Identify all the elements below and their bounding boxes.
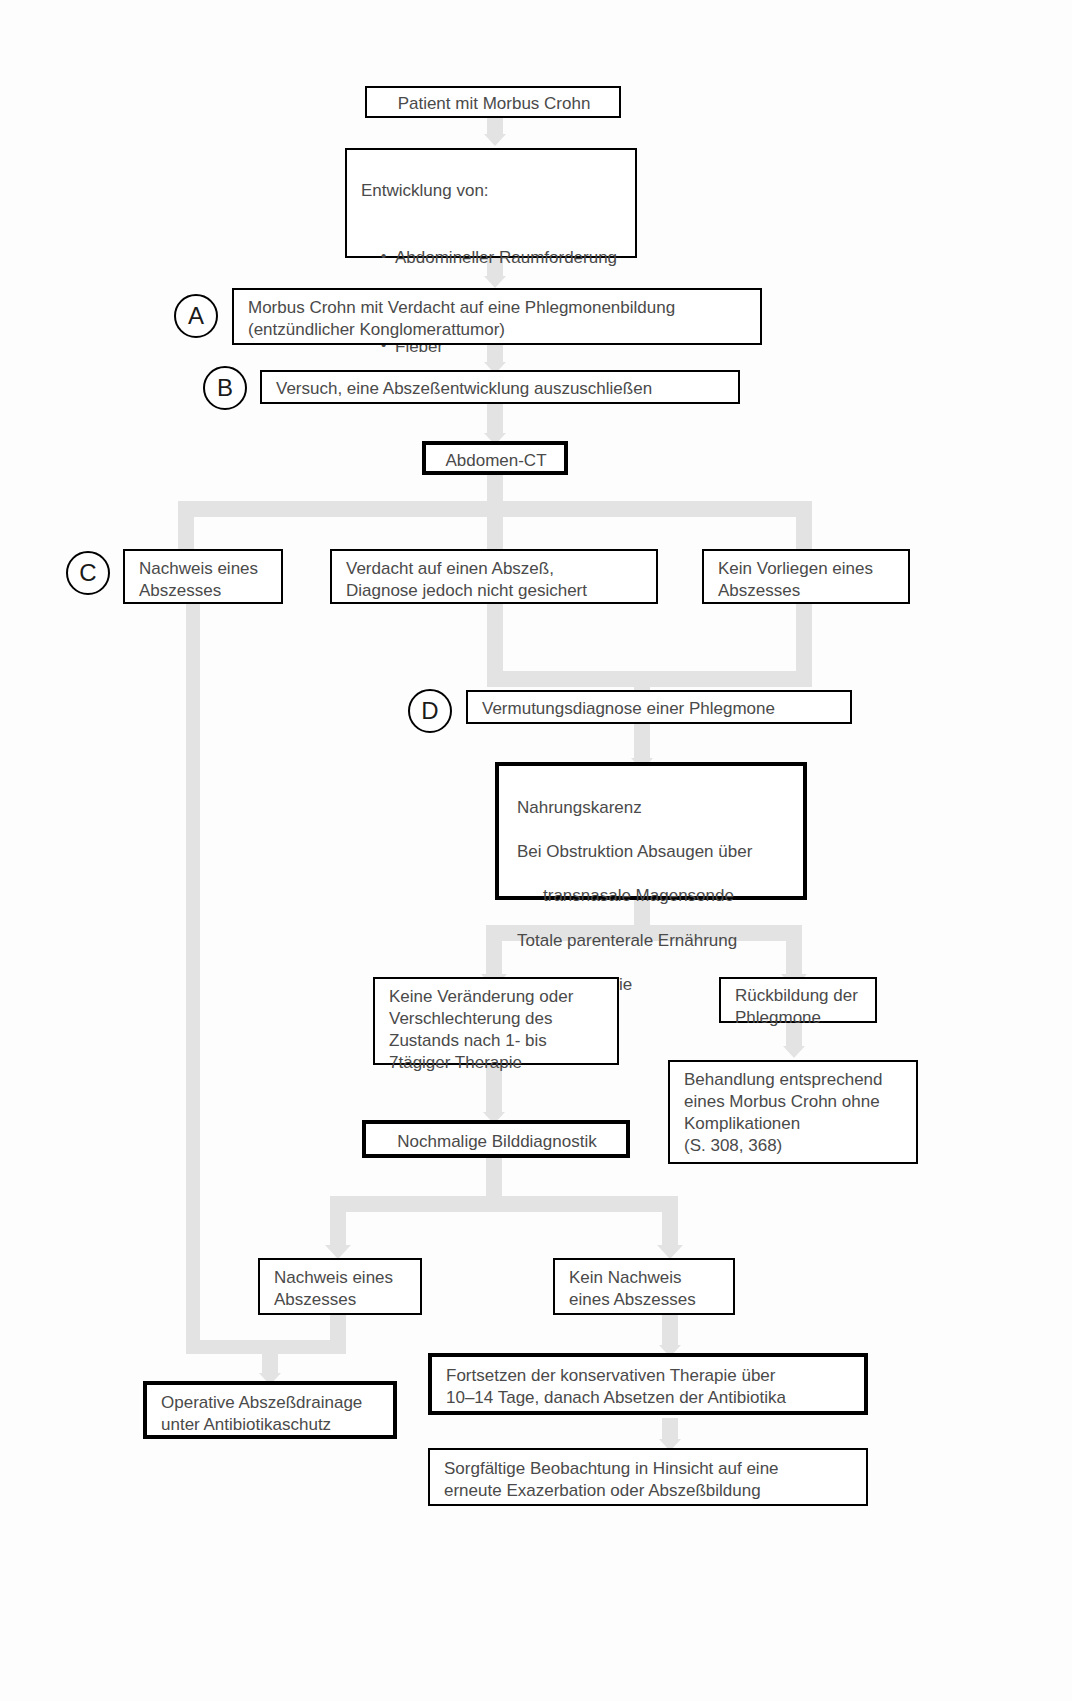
marker-a: A (174, 294, 218, 338)
node-nachweis-abszess-1[interactable]: Nachweis eines Abszesses (123, 549, 283, 604)
node-sorgfaeltige-beobachtung[interactable]: Sorgfältige Beobachtung in Hinsicht auf … (428, 1448, 868, 1506)
node-patient[interactable]: Patient mit Morbus Crohn (365, 86, 621, 118)
entwicklung-item: Abdomineller Raumforderung (381, 247, 625, 269)
connector-split-right-nochmalige (662, 1196, 678, 1250)
node-kein-vorliegen-abszess[interactable]: Kein Vorliegen eines Abszesses (702, 549, 910, 604)
node-vermutungsdiagnose[interactable]: Vermutungsdiagnose einer Phlegmone (466, 690, 852, 724)
connector-split-left-nochmalige (330, 1196, 346, 1250)
node-operative-drainage[interactable]: Operative Abszeßdrainage unter Antibioti… (143, 1381, 397, 1439)
therapie-line-3: transnasale Magensonde (517, 885, 793, 907)
node-fortsetzen-therapie[interactable]: Fortsetzen der konservativen Therapie üb… (428, 1353, 868, 1415)
node-versuch-ausschluss[interactable]: Versuch, eine Abszeßentwicklung auszusch… (260, 370, 740, 404)
therapie-line-2: Bei Obstruktion Absaugen über (517, 841, 793, 863)
connector-split-left-therapie (486, 925, 502, 979)
node-rueckbildung[interactable]: Rückbildung der Phlegmone (719, 977, 877, 1023)
connector-c-rail-vertical (186, 603, 200, 1354)
entwicklung-heading: Entwicklung von: (361, 180, 625, 202)
arrow-patient-to-entwicklung (484, 134, 506, 146)
node-therapie[interactable]: Nahrungskarenz Bei Obstruktion Absaugen … (495, 762, 807, 900)
flowchart-canvas: Patient mit Morbus Crohn Entwicklung von… (0, 0, 1072, 1701)
connector-kein-nachweis-to-fortsetzen (662, 1314, 678, 1348)
node-verdacht-abszess[interactable]: Verdacht auf einen Abszeß, Diagnose jedo… (330, 549, 658, 604)
arrow-to-nachweis-2 (325, 1245, 351, 1259)
node-kein-nachweis-abszess[interactable]: Kein Nachweis eines Abszesses (553, 1258, 735, 1315)
node-nachweis-abszess-2[interactable]: Nachweis eines Abszesses (258, 1258, 422, 1315)
connector-d-to-therapie (634, 723, 650, 761)
node-entwicklung[interactable]: Entwicklung von: Abdomineller Raumforder… (345, 148, 637, 258)
arrow-to-kein-nachweis (657, 1245, 683, 1259)
marker-d: D (408, 689, 452, 733)
connector-merge-to-drainage (262, 1340, 278, 1376)
node-keine-veraenderung[interactable]: Keine Veränderung oder Verschlechterung … (373, 977, 619, 1065)
marker-b: B (203, 366, 247, 410)
connector-ct-down (487, 474, 503, 504)
node-abdomen-ct[interactable]: Abdomen-CT (422, 441, 568, 475)
node-verdacht-phlegmone[interactable]: Morbus Crohn mit Verdacht auf eine Phleg… (232, 288, 762, 345)
connector-split-bus-nochmalige (330, 1196, 678, 1212)
marker-c: C (66, 551, 110, 595)
node-nochmalige-bilddiagnostik[interactable]: Nochmalige Bilddiagnostik (362, 1120, 630, 1158)
therapie-line-1: Nahrungskarenz (517, 797, 793, 819)
node-behandlung-entsprechend[interactable]: Behandlung entsprechend eines Morbus Cro… (668, 1060, 918, 1164)
therapie-line-4: Totale parenterale Ernährung (517, 930, 793, 952)
